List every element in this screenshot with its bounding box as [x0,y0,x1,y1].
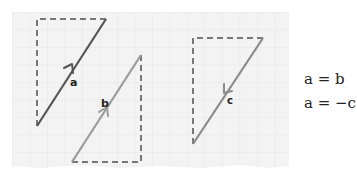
equation-a-equals-b: a = b [304,70,345,88]
diagram-canvas: a b c [0,0,357,182]
graph-paper [12,12,289,168]
vector-a-label: a [70,76,77,89]
equation-a-equals-minus-c: a = −c [304,94,356,112]
vector-c-label: c [227,95,233,106]
vector-b-label: b [101,97,109,110]
vector-diagram: a b c a = b a = −c [0,0,357,182]
